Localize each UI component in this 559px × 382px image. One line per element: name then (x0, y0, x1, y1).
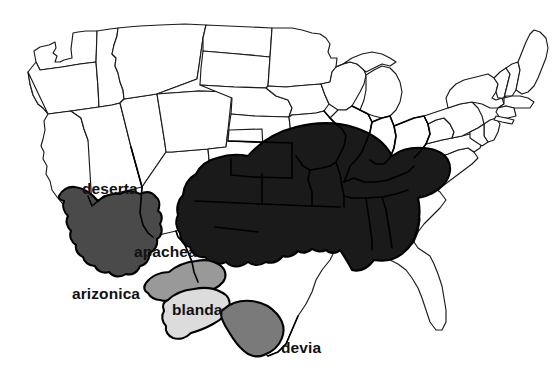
state-oregon (28, 62, 99, 114)
region-label-apachea: apachea (134, 244, 197, 260)
region-label-reclusa: reclusa (248, 266, 303, 282)
state-south-dakota (200, 51, 270, 88)
state-maine (516, 30, 548, 94)
state-minnesota (268, 28, 337, 87)
state-michigan-lower (360, 66, 402, 118)
distribution-map-figure: deserta apachea arizonica blanda reclusa… (0, 0, 559, 382)
state-colorado (157, 91, 232, 152)
region-label-arizonica: arizonica (72, 286, 140, 302)
region-label-devia: devia (281, 340, 321, 356)
region-label-blanda: blanda (172, 302, 223, 318)
state-new-jersey (484, 118, 500, 142)
region-label-deserta: deserta (82, 181, 138, 197)
